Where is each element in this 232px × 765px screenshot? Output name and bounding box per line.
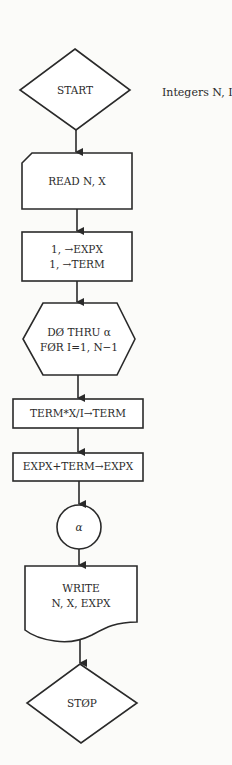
init-line-2: 1, →TERM <box>22 257 132 272</box>
type-declaration-note: Integers N, I <box>162 86 232 99</box>
connector-label: α <box>57 520 101 535</box>
init-label: 1, →EXPX 1, →TERM <box>22 242 132 272</box>
write-label: WRITE N, X, EXPX <box>25 581 137 611</box>
sum-label: EXPX+TERM→EXPX <box>13 459 143 474</box>
term-label: TERM*X/I→TERM <box>13 406 143 421</box>
init-line-1: 1, →EXPX <box>22 242 132 257</box>
connector-text: α <box>75 521 82 533</box>
loop-line-2: FØR I=1, N−1 <box>23 340 135 355</box>
stop-label: STØP <box>27 696 137 711</box>
read-label: READ N, X <box>22 174 132 189</box>
loop-label: DØ THRU α FØR I=1, N−1 <box>23 325 135 355</box>
write-line-1: WRITE <box>25 581 137 596</box>
write-line-2: N, X, EXPX <box>25 596 137 611</box>
loop-line-1: DØ THRU α <box>23 325 135 340</box>
start-text: START <box>57 84 93 96</box>
stop-text: STØP <box>67 697 97 709</box>
sum-text: EXPX+TERM→EXPX <box>23 460 133 472</box>
term-text: TERM*X/I→TERM <box>30 407 126 419</box>
read-text: READ N, X <box>48 175 106 187</box>
start-label: START <box>20 83 130 98</box>
flowchart-canvas <box>0 0 232 765</box>
